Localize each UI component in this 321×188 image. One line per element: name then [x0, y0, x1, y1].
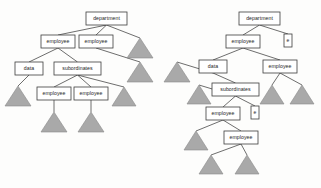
collapsed-subtree-triangle-icon	[112, 87, 136, 106]
collapsed-subtree-triangle-icon	[235, 155, 259, 174]
tree-node-label: employee	[85, 38, 108, 44]
tree-edge	[213, 73, 236, 83]
subtrees-layer	[5, 38, 314, 174]
tree-edge	[213, 48, 243, 60]
collapsed-subtree-triangle-icon	[127, 62, 153, 82]
tree-node-label: department	[93, 15, 120, 21]
tree-node[interactable]: employee	[226, 35, 260, 48]
tree-node[interactable]: department	[86, 12, 127, 25]
tree-edge	[58, 25, 107, 35]
tree-node-label: department	[246, 15, 273, 21]
tree-node[interactable]: data	[15, 62, 43, 75]
collapsed-subtree-triangle-icon	[290, 85, 314, 104]
tree-edge	[243, 25, 260, 35]
tree-edge	[241, 144, 247, 155]
tree-node[interactable]: employee	[41, 35, 75, 48]
tree-edge	[280, 73, 302, 85]
tree-node[interactable]: e	[284, 34, 292, 47]
tree-node[interactable]: employee	[224, 131, 258, 144]
collapsed-subtree-triangle-icon	[199, 155, 223, 174]
collapsed-subtree-triangle-icon	[127, 38, 153, 58]
tree-node[interactable]: employee	[74, 87, 108, 100]
tree-node[interactable]: e	[251, 106, 259, 119]
tree-edge	[223, 96, 236, 107]
collapsed-subtree-triangle-icon	[260, 85, 284, 104]
tree-node-label: employee	[232, 38, 255, 44]
tree-node[interactable]: department	[239, 12, 280, 25]
tree-node[interactable]: data	[199, 60, 227, 73]
collapsed-subtree-triangle-icon	[78, 112, 104, 132]
tree-node-label: employee	[43, 90, 66, 96]
tree-edge	[196, 120, 223, 131]
tree-canvas: departmentemployeeemployeedatasubordinat…	[0, 0, 321, 188]
tree-edge	[243, 48, 280, 60]
tree-edge	[260, 25, 289, 34]
tree-edge	[272, 73, 280, 85]
tree-edge	[18, 75, 29, 86]
tree-node-label: employee	[269, 63, 292, 69]
tree-node-label: employee	[80, 90, 103, 96]
tree-node[interactable]: subordinates	[54, 62, 101, 75]
collapsed-subtree-triangle-icon	[184, 131, 208, 150]
tree-node[interactable]: subordinates	[212, 83, 259, 96]
tree-edge	[223, 120, 241, 131]
collapsed-subtree-triangle-icon	[5, 86, 31, 106]
tree-node-label: employee	[212, 110, 235, 116]
tree-node-label: employee	[230, 134, 253, 140]
tree-edge	[29, 48, 58, 62]
tree-node-label: e	[254, 109, 257, 115]
tree-node[interactable]: employee	[37, 87, 71, 100]
tree-node-label: data	[208, 63, 218, 69]
tree-node-label: e	[287, 37, 290, 43]
tree-edge	[58, 48, 78, 62]
tree-edge	[54, 75, 78, 87]
tree-node[interactable]: employee	[206, 107, 240, 120]
tree-edge	[211, 144, 241, 155]
tree-node-label: data	[24, 65, 34, 71]
tree-node-label: subordinates	[220, 86, 251, 92]
tree-node[interactable]: employee	[263, 60, 297, 73]
tree-node-label: subordinates	[62, 65, 93, 71]
collapsed-subtree-triangle-icon	[41, 112, 67, 132]
tree-node[interactable]: employee	[79, 35, 113, 48]
tree-node-label: employee	[47, 38, 70, 44]
tree-edge	[236, 96, 256, 106]
tree-diagram-figure: departmentemployeeemployeedatasubordinat…	[0, 0, 321, 188]
